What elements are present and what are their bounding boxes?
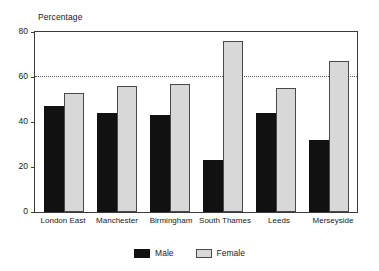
bar-group-manchester xyxy=(97,32,137,212)
bar-group-leeds xyxy=(256,32,296,212)
light-gray-square-swatch xyxy=(196,249,212,258)
x-axis-label-manchester: Manchester xyxy=(90,216,144,230)
black-square-swatch xyxy=(134,249,150,258)
bar-male-merseyside xyxy=(309,140,329,212)
legend-item-male[interactable]: Male xyxy=(134,248,173,258)
x-axis-label-birmingham: Birmingham xyxy=(144,216,198,230)
y-axis-tick-label: 80 xyxy=(19,26,28,36)
y-axis-title: Percentage xyxy=(38,12,82,22)
bar-group-london-east xyxy=(44,32,84,212)
y-axis-tick-label: 20 xyxy=(19,161,28,171)
bar-female-merseyside xyxy=(329,61,349,212)
bar-male-south-thames xyxy=(203,160,223,212)
bar-group-south-thames xyxy=(203,32,243,212)
x-axis-label-merseyside: Merseyside xyxy=(306,216,360,230)
bar-male-manchester xyxy=(97,113,117,212)
bar-male-leeds xyxy=(256,113,276,212)
legend-item-female[interactable]: Female xyxy=(196,248,245,258)
bar-female-south-thames xyxy=(223,41,243,212)
plot-area: 020406080 xyxy=(34,31,358,213)
legend-label: Male xyxy=(155,248,173,258)
bar-female-birmingham xyxy=(170,84,190,212)
chart-legend: MaleFemale xyxy=(0,248,379,258)
bar-male-london-east xyxy=(44,106,64,212)
x-axis-label-london-east: London East xyxy=(36,216,90,230)
legend-label: Female xyxy=(217,248,245,258)
bar-series-layer xyxy=(35,32,357,212)
bar-group-birmingham xyxy=(150,32,190,212)
x-axis-category-labels: London EastManchesterBirminghamSouth Tha… xyxy=(34,216,358,230)
bar-female-leeds xyxy=(276,88,296,212)
bar-group-merseyside xyxy=(309,32,349,212)
y-axis-tick-label: 40 xyxy=(19,116,28,126)
bar-chart: Percentage 020406080 London EastManchest… xyxy=(0,0,379,271)
x-axis-label-leeds: Leeds xyxy=(252,216,306,230)
bar-male-birmingham xyxy=(150,115,170,212)
y-axis-tick-label: 60 xyxy=(19,71,28,81)
bar-female-manchester xyxy=(117,86,137,212)
bar-female-london-east xyxy=(64,93,84,212)
y-axis-tick-label: 0 xyxy=(23,206,28,216)
x-axis-label-south-thames: South Thames xyxy=(198,216,252,230)
